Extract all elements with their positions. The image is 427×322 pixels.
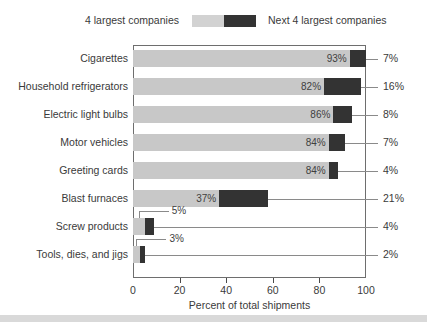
value-label-next-four-largest: 7% [383,50,398,67]
category-label: Electric light bulbs [0,106,128,123]
chart-legend: 4 largest companies Next 4 largest compa… [0,12,427,30]
value-label-four-largest: 3% [169,233,183,244]
callout-leader-line [338,171,378,172]
callout-leader-line [154,227,378,228]
bar-row: 84% [133,134,366,151]
value-label-four-largest: 93% [133,50,350,67]
bar-segment-four-largest [133,246,140,263]
bar-segment-four-largest [133,218,145,235]
value-label-next-four-largest: 4% [383,218,398,235]
value-label-next-four-largest: 2% [383,246,398,263]
category-label: Tools, dies, and jigs [0,246,128,263]
value-label-next-four-largest: 4% [383,162,398,179]
bar-segment-next-four-largest [145,218,154,235]
legend-label-next-four-largest: Next 4 largest companies [268,14,386,26]
x-axis-tick [273,278,274,283]
legend-swatch-four-largest [192,15,224,27]
callout-leader-line [366,59,378,60]
value-label-next-four-largest: 8% [383,106,398,123]
x-axis-tick [226,278,227,283]
callout-leader-horizontal [136,239,166,240]
category-label: Motor vehicles [0,134,128,151]
callout-leader-vertical [139,211,140,218]
callout-leader-line [145,255,378,256]
x-axis-tick-label: 0 [113,284,153,296]
callout-leader-line [268,199,378,200]
x-axis-tick-label: 100 [346,284,386,296]
bar-segment-next-four-largest [219,190,268,207]
callout-leader-line [361,87,378,88]
legend-swatch-next-four-largest [224,15,256,27]
value-label-four-largest: 86% [133,106,333,123]
value-label-next-four-largest: 21% [383,190,404,207]
x-axis-title: Percent of total shipments [133,299,366,311]
callout-leader-horizontal [139,211,169,212]
bar-segment-next-four-largest [324,78,361,95]
callout-leader-line [352,115,378,116]
footer-band [0,315,427,322]
x-axis-tick-label: 80 [299,284,339,296]
plot-area: 93%82%86%84%84%37%5%3% [133,45,366,278]
callout-leader-line [345,143,378,144]
value-label-four-largest: 5% [172,205,186,216]
x-axis-tick-label: 60 [253,284,293,296]
category-label: Greeting cards [0,162,128,179]
bar-segment-next-four-largest [333,106,352,123]
x-axis-tick-label: 20 [160,284,200,296]
value-label-next-four-largest: 16% [383,78,404,95]
category-label: Cigarettes [0,50,128,67]
category-label: Screw products [0,218,128,235]
category-label: Household refrigerators [0,78,128,95]
bar-row: 84% [133,162,366,179]
x-axis-tick-label: 40 [206,284,246,296]
x-axis-tick [319,278,320,283]
bar-row: 86% [133,106,366,123]
bar-segment-next-four-largest [329,134,345,151]
value-label-four-largest: 84% [133,162,329,179]
value-label-next-four-largest: 7% [383,134,398,151]
bar-segment-next-four-largest [350,50,366,67]
stacked-bar-chart: 4 largest companies Next 4 largest compa… [0,0,427,322]
x-axis-tick [180,278,181,283]
value-label-four-largest: 82% [133,78,324,95]
bar-row: 82% [133,78,366,95]
legend-label-four-largest: 4 largest companies [85,14,179,26]
bar-segment-next-four-largest [329,162,338,179]
category-label: Blast furnaces [0,190,128,207]
value-label-four-largest: 84% [133,134,329,151]
callout-leader-vertical [136,239,137,246]
bar-row: 93% [133,50,366,67]
